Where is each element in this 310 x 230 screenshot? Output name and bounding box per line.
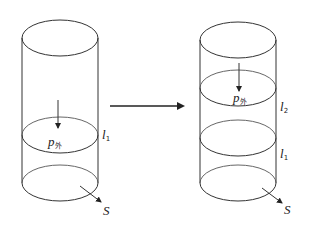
left-top-ellipse <box>22 20 98 56</box>
left-pressure-label: p外 <box>47 134 62 150</box>
right-mid-ellipse-back <box>200 120 276 138</box>
left-cylinder: p外 l1 S <box>22 20 110 218</box>
right-pressure-label: p外 <box>232 90 247 106</box>
right-bottom-ellipse-back <box>200 165 276 183</box>
right-bottom-ellipse-front <box>200 183 276 201</box>
right-cylinder: p外 l2 l1 S <box>200 22 291 217</box>
right-l1-label: l1 <box>280 146 288 162</box>
left-l1-label: l1 <box>102 127 110 143</box>
left-area-label: S <box>103 203 110 218</box>
left-bottom-ellipse-back <box>22 165 98 183</box>
right-mid-ellipse-front <box>200 138 276 156</box>
area-arrow-icon <box>80 186 101 202</box>
right-upper-ellipse-back <box>200 70 276 88</box>
left-mid-ellipse-back <box>22 117 98 135</box>
right-l2-label: l2 <box>280 99 288 115</box>
right-area-label: S <box>284 202 291 217</box>
right-top-ellipse <box>200 22 276 58</box>
left-bottom-ellipse-front <box>22 183 98 201</box>
diagram-canvas: p外 l1 S p外 l2 l1 S <box>0 0 310 230</box>
